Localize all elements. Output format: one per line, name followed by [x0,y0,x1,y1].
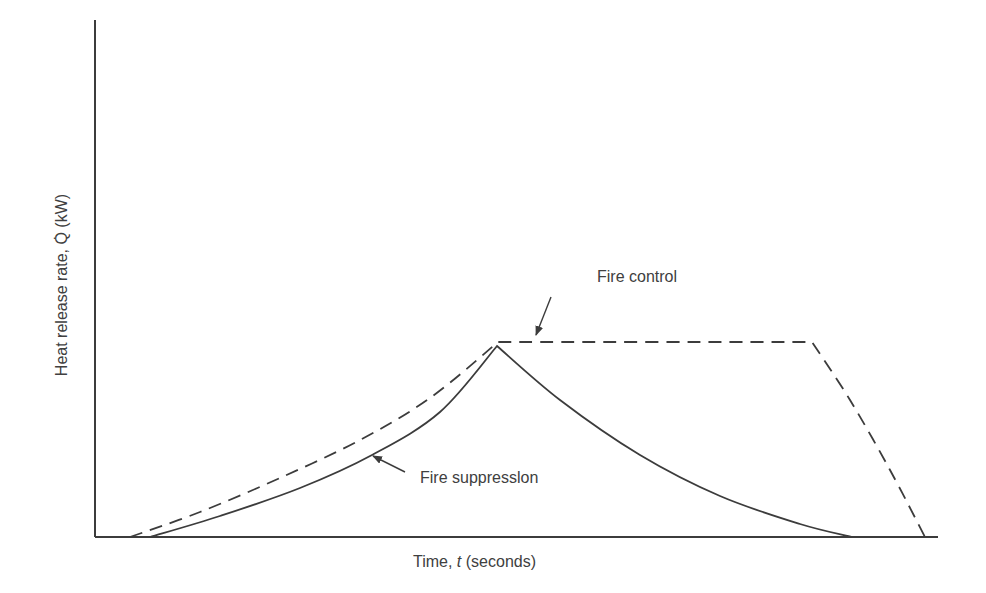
heat-release-rate-plot [0,0,986,593]
fire-control-curve [130,342,925,537]
y-axis-label: Heat release rate, Q̇ (kW) [53,194,71,376]
x-axis-label-suffix: (seconds) [461,553,536,570]
x-axis-label-prefix: Time, [413,553,457,570]
fire-suppression-arrow-icon [373,456,405,472]
x-axis-label: Time, t (seconds) [413,553,536,571]
fire-control-arrow-icon [536,297,551,335]
fire-suppression-curve [150,346,852,537]
fire-control-annotation: Fire control [597,268,677,286]
fire-suppression-annotation: Fire suppresslon [420,469,538,487]
